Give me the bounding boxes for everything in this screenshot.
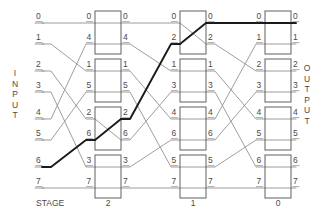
lbl-s2-right-4: 2 — [123, 107, 128, 117]
switch-2-0 — [95, 11, 121, 54]
lbl-s1-right-2: 1 — [208, 59, 213, 69]
input-port-3: 3 — [36, 80, 41, 90]
lbl-s0-right-1: 1 — [293, 32, 298, 42]
switch-0-3 — [265, 155, 291, 198]
lbl-s0-right-0: 0 — [293, 11, 298, 21]
lbl-s1-left-3: 3 — [172, 80, 177, 90]
lbl-s2-right-1: 4 — [123, 32, 128, 42]
lbl-s1-right-0: 0 — [208, 11, 213, 21]
lbl-s0-left-0: 0 — [257, 11, 262, 21]
lbl-s0-right-4: 4 — [293, 107, 298, 117]
lbl-s1-left-1: 2 — [172, 32, 177, 42]
input-port-5: 5 — [36, 128, 41, 138]
stage-label-1: 1 — [191, 198, 196, 208]
stage-row-title: STAGE — [36, 198, 65, 208]
input-port-7: 7 — [36, 176, 41, 186]
lbl-s0-left-6: 6 — [257, 155, 262, 165]
input-port-6: 6 — [36, 155, 41, 165]
input-port-1: 1 — [36, 32, 41, 42]
lbl-s1-left-4: 4 — [172, 107, 177, 117]
lbl-s1-left-6: 5 — [172, 155, 177, 165]
stage-label-row: STAGE210 — [36, 198, 281, 208]
lbl-s2-right-5: 6 — [123, 128, 128, 138]
lbl-s1-right-3: 3 — [208, 80, 213, 90]
lbl-s2-right-7: 7 — [123, 176, 128, 186]
switch-1-1 — [180, 59, 206, 102]
switch-0-0 — [265, 11, 291, 54]
lbl-s2-right-2: 1 — [123, 59, 128, 69]
network-diagram: I N P U T O U T P U T 012345670415263704… — [0, 0, 322, 222]
input-port-4: 4 — [36, 107, 41, 117]
highlighted-path — [42, 23, 296, 167]
network-svg: 0123456704152637041526370213465702134657… — [0, 0, 322, 222]
lbl-s1-right-7: 7 — [208, 176, 213, 186]
lbl-s2-left-0: 0 — [87, 11, 92, 21]
lbl-s0-right-6: 6 — [293, 155, 298, 165]
lbl-s0-left-3: 3 — [257, 80, 262, 90]
lbl-s0-right-5: 5 — [293, 128, 298, 138]
lbl-s0-left-1: 1 — [257, 32, 262, 42]
lbl-s0-left-7: 7 — [257, 176, 262, 186]
switch-1-3 — [180, 155, 206, 198]
switch-2-3 — [95, 155, 121, 198]
lbl-s2-left-3: 5 — [87, 80, 92, 90]
lbl-s0-right-3: 3 — [293, 80, 298, 90]
lbl-s2-left-5: 6 — [87, 128, 92, 138]
lbl-s0-left-2: 2 — [257, 59, 262, 69]
input-port-0: 0 — [36, 11, 41, 21]
lbl-s1-left-5: 6 — [172, 128, 177, 138]
stage-label-2: 2 — [106, 198, 111, 208]
lbl-s0-left-5: 5 — [257, 128, 262, 138]
lbl-s2-left-2: 1 — [87, 59, 92, 69]
lbl-s2-right-3: 5 — [123, 80, 128, 90]
lbl-s1-right-4: 4 — [208, 107, 213, 117]
lbl-s2-left-7: 7 — [87, 176, 92, 186]
lbl-s1-right-6: 5 — [208, 155, 213, 165]
switch-0-2 — [265, 107, 291, 150]
switch-0-1 — [265, 59, 291, 102]
lbl-s1-left-2: 1 — [172, 59, 177, 69]
lbl-s2-right-6: 3 — [123, 155, 128, 165]
lbl-s0-right-2: 2 — [293, 59, 298, 69]
input-port-2: 2 — [36, 59, 41, 69]
lbl-s0-right-7: 7 — [293, 176, 298, 186]
lbl-s1-left-7: 7 — [172, 176, 177, 186]
lbl-s1-right-5: 6 — [208, 128, 213, 138]
lbl-s2-left-1: 4 — [87, 32, 92, 42]
switch-1-2 — [180, 107, 206, 150]
lbl-s1-left-0: 0 — [172, 11, 177, 21]
lbl-s2-left-4: 2 — [87, 107, 92, 117]
lbl-s2-right-0: 0 — [123, 11, 128, 21]
lbl-s0-left-4: 4 — [257, 107, 262, 117]
lbl-s1-right-1: 2 — [208, 32, 213, 42]
stage-label-0: 0 — [276, 198, 281, 208]
lbl-s2-left-6: 3 — [87, 155, 92, 165]
switch-2-1 — [95, 59, 121, 102]
